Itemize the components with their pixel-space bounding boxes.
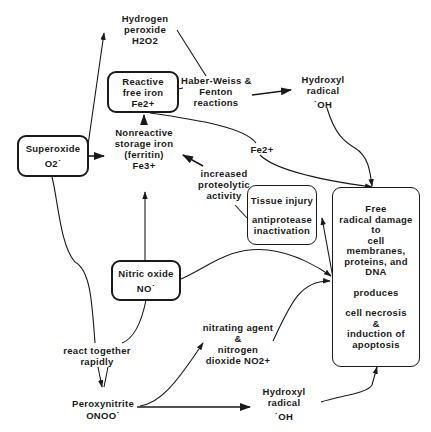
- edge-tissue-proteolytic: [235, 205, 247, 218]
- node-free-radical-damage: Free radical damage to cell membranes, p…: [332, 187, 420, 367]
- node-nitric-oxide: Nitric oxide NO˙: [111, 260, 181, 301]
- node-nonreactive-storage-iron: Nonreactive storage iron (ferritin) Fe3+: [106, 127, 182, 171]
- edge-hydroxylbottom-damage: [321, 367, 377, 402]
- node-nitrating-agent: nitrating agent & nitrogen dioxide NO2+: [202, 322, 274, 366]
- edge-proteolytic-ferritin: [183, 155, 203, 166]
- node-superoxide: Superoxide O2˙: [17, 135, 89, 177]
- edge-fe2-damage: [260, 155, 372, 187]
- edge-nitrating-damage: [273, 281, 330, 341]
- node-haber-weiss-fenton: Haber-Weiss & Fenton reactions: [181, 75, 251, 108]
- edge-superoxide-h2o2: [88, 33, 104, 145]
- edge-h2o2-haberweiss: [177, 30, 206, 76]
- edge-superoxide-react: [52, 177, 95, 343]
- node-tissue-injury: Tissue injury antiprotease inactivation: [247, 185, 317, 245]
- node-peroxynitrite: Peroxynitrite ONOO˙: [70, 398, 136, 421]
- node-increased-proteolytic-activity: increased proteolytic activity: [194, 168, 254, 201]
- edge-peroxynitrite-nitrating: [140, 343, 203, 406]
- edge-react-peroxynitrite-a: [98, 367, 102, 387]
- node-react-together-rapidly: react together rapidly: [62, 345, 132, 367]
- edge-haberweiss-hydroxyl: [252, 90, 291, 95]
- node-hydrogen-peroxide: Hydrogen peroxide H2O2: [112, 13, 178, 46]
- edge-react-peroxynitrite-b: [104, 367, 108, 387]
- edge-no-damage: [181, 249, 331, 279]
- edge-hydroxyl-damage: [327, 108, 372, 186]
- edge-label-fe2: Fe2+: [247, 144, 277, 155]
- node-hydroxyl-radical-bottom: Hydroxyl radical ˙OH: [259, 386, 309, 422]
- edge-no-react: [122, 300, 146, 343]
- node-hydroxyl-radical-top: Hydroxyl radical ˙OH: [298, 74, 348, 110]
- node-reactive-free-iron: Reactive free iron Fe2+: [107, 71, 179, 113]
